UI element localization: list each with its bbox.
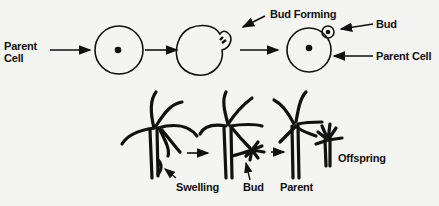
label-parent-cell-right: Parent Cell xyxy=(376,50,431,62)
label-offspring: Offspring xyxy=(338,152,386,164)
budding-diagram xyxy=(0,0,439,206)
bud-forming-cell xyxy=(176,26,230,76)
hydra-with-bud xyxy=(200,92,264,178)
label-bud-forming: Bud Forming xyxy=(270,8,336,20)
nucleus xyxy=(116,48,121,53)
bud-nucleus xyxy=(327,31,330,34)
label-bud: Bud xyxy=(376,18,397,30)
label-parent-cell-left: Parent Cell xyxy=(4,40,37,64)
arrow-bud-forming xyxy=(243,16,265,27)
label-bud-hydra: Bud xyxy=(243,181,264,193)
label-parent: Parent xyxy=(280,181,313,193)
arrow-bud xyxy=(341,24,373,29)
bud-forming-nucleus xyxy=(220,37,223,40)
hydra-swelling xyxy=(122,92,197,178)
nucleus-2 xyxy=(307,46,312,51)
label-swelling: Swelling xyxy=(176,181,219,193)
hydra-parent xyxy=(274,92,322,178)
arrow-swelling xyxy=(165,169,176,178)
arrow-bud-hydra xyxy=(246,163,250,180)
